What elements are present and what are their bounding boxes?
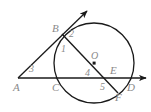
angle-label-4: 4 [85, 68, 90, 78]
angle-label-1: 1 [61, 44, 66, 54]
point-label-B: B [52, 23, 59, 34]
point-label-C: C [52, 82, 59, 93]
angle-label-2: 2 [69, 29, 74, 39]
center-point-marker [93, 62, 96, 65]
angle-label-5: 5 [100, 82, 105, 92]
point-label-F: F [115, 92, 122, 103]
point-label-A: A [13, 82, 20, 93]
geometry-figure: A B C D E F O 1 2 3 4 5 [0, 0, 151, 112]
point-label-E: E [110, 65, 117, 76]
figure-canvas [0, 0, 151, 112]
center-label-O: O [91, 51, 98, 61]
angle-label-3: 3 [29, 64, 34, 74]
point-label-D: D [127, 82, 135, 93]
